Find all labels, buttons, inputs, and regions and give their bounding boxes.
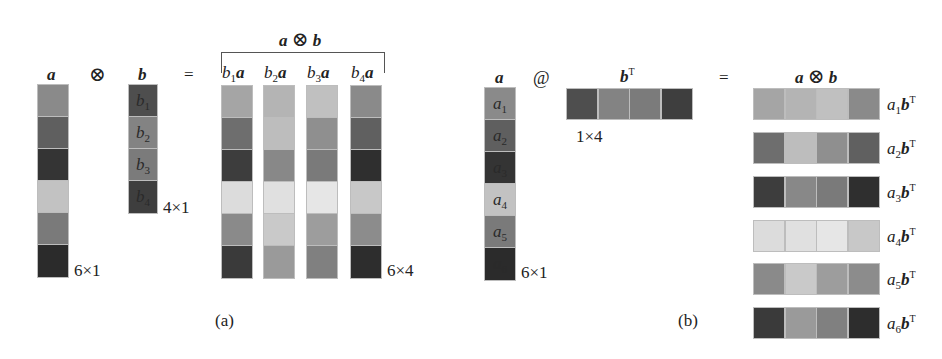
result-b-cell-r5-c4	[848, 263, 880, 295]
vector-b-shape: 4×1	[163, 199, 190, 216]
result-a-column-label-1: b1a	[222, 64, 245, 84]
vector-a-b-cell-3-label: a3	[485, 157, 515, 178]
result-b-cell-r6-c4	[848, 307, 880, 339]
result-a-cell-r6-c4	[350, 245, 382, 279]
result-b-cell-r6-c2	[785, 307, 817, 339]
result-a-cell-r6-c2	[263, 245, 295, 279]
result-a-cell-r1-c1	[221, 85, 253, 118]
vector-b-cell-1: b1	[128, 84, 158, 117]
result-b-cell-r1-c2	[785, 88, 817, 120]
result-a-cell-r4-c2	[263, 181, 295, 214]
result-a-cell-r4-c1	[221, 181, 253, 214]
result-b-cell-r5-c1	[753, 263, 785, 295]
result-a-cell-r3-c1	[221, 149, 253, 182]
result-a-cell-r2-c2	[263, 117, 295, 150]
vector-a-cell-3	[37, 148, 69, 181]
result-b-title: a ⊗ b	[795, 66, 837, 86]
vector-a-b-cell-1: a1	[484, 87, 516, 120]
result-a-cell-r1-c4	[350, 85, 382, 118]
result-b-cell-r5-c3	[816, 263, 848, 295]
result-a-cell-r4-c4	[350, 181, 382, 214]
result-b-cell-r3-c3	[816, 176, 848, 208]
result-b-cell-r4-c2	[785, 220, 817, 252]
result-a-column-label-4: b4a	[351, 64, 374, 84]
vector-a-b-cell-2-label: a2	[485, 125, 515, 146]
result-b-cell-r4-c4	[848, 220, 880, 252]
equals-sign-b: =	[719, 69, 729, 86]
result-a-cell-r1-c3	[306, 85, 338, 118]
result-b-cell-r1-c1	[753, 88, 785, 120]
result-a-cell-r6-c1	[221, 245, 253, 279]
vector-a-cell-2	[37, 116, 69, 149]
result-a-cell-r5-c3	[306, 213, 338, 246]
result-b-cell-r2-c4	[848, 132, 880, 164]
vector-a-label: a	[47, 66, 56, 83]
vector-b-label: b	[138, 66, 147, 83]
vector-a-b-shape: 6×1	[521, 264, 548, 281]
equals-sign-a: =	[184, 66, 194, 83]
vector-a-b-cell-4: a4	[484, 183, 516, 216]
result-b-cell-r6-c1	[753, 307, 785, 339]
result-a-cell-r2-c3	[306, 117, 338, 150]
vector-b-cell-3: b3	[128, 148, 158, 181]
result-b-cell-r5-c2	[785, 263, 817, 295]
vector-b-cell-4: b4	[128, 180, 158, 214]
result-a-column-label-3: b3a	[307, 64, 330, 84]
matmul-operator: @	[533, 69, 550, 87]
vector-bT-cell-3	[629, 88, 661, 120]
vector-a-b-cell-1-label: a1	[485, 93, 515, 114]
vector-a-b-cell-6-label: a6	[485, 254, 515, 275]
caption-b: (b)	[678, 312, 698, 329]
result-b-cell-r4-c3	[816, 220, 848, 252]
result-a-cell-r1-c2	[263, 85, 295, 118]
vector-a-b-cell-2: a2	[484, 119, 516, 152]
result-b-row-label-3: a3bT	[887, 183, 916, 204]
result-a-cell-r5-c4	[350, 213, 382, 246]
result-b-cell-r2-c1	[753, 132, 785, 164]
result-a-cell-r2-c4	[350, 117, 382, 150]
result-a-cell-r3-c4	[350, 149, 382, 182]
result-b-row-label-6: a6bT	[887, 314, 916, 335]
vector-a-cell-4	[37, 180, 69, 213]
kronecker-operator: ⊗	[89, 64, 106, 84]
result-a-cell-r5-c2	[263, 213, 295, 246]
result-a-shape: 6×4	[387, 262, 414, 279]
vector-a-b-cell-6: a6	[484, 247, 516, 281]
vector-a-b-cell-5-label: a5	[485, 221, 515, 242]
result-a-column-label-2: b2a	[264, 64, 287, 84]
vector-a-b-cell-5: a5	[484, 215, 516, 248]
result-b-row-label-5: a5bT	[887, 270, 916, 291]
vector-a-b-cell-4-label: a4	[485, 189, 515, 210]
vector-bT-shape: 1×4	[576, 128, 603, 145]
vector-a-b-cell-3: a3	[484, 151, 516, 184]
result-b-cell-r2-c3	[816, 132, 848, 164]
vector-bT-label: bT	[620, 67, 635, 85]
vector-a-cell-1	[37, 84, 69, 117]
vector-b-cell-1-label: b1	[129, 90, 157, 111]
result-a-cell-r2-c1	[221, 117, 253, 150]
result-b-row-label-2: a2bT	[887, 139, 916, 160]
caption-a: (a)	[215, 312, 234, 329]
vector-b-cell-2-label: b2	[129, 122, 157, 143]
vector-bT-cell-1	[566, 88, 598, 120]
result-b-cell-r3-c1	[753, 176, 785, 208]
result-b-cell-r4-c1	[753, 220, 785, 252]
vector-b-cell-3-label: b3	[129, 154, 157, 175]
result-a-cell-r6-c3	[306, 245, 338, 279]
result-b-row-label-1: a1bT	[887, 95, 916, 116]
result-b-cell-r3-c2	[785, 176, 817, 208]
result-a-cell-r5-c1	[221, 213, 253, 246]
vector-bT-cell-4	[661, 88, 693, 120]
vector-a-cell-6	[37, 244, 69, 278]
vector-a-shape: 6×1	[74, 262, 101, 279]
result-b-cell-r6-c3	[816, 307, 848, 339]
result-a-title: a ⊗ b	[279, 29, 321, 49]
result-b-cell-r1-c4	[848, 88, 880, 120]
result-b-row-label-4: a4bT	[887, 227, 916, 248]
result-b-cell-r3-c4	[848, 176, 880, 208]
vector-b-cell-2: b2	[128, 116, 158, 149]
vector-a-b-label: a	[495, 69, 504, 86]
vector-b-cell-4-label: b4	[129, 187, 157, 208]
vector-bT-cell-2	[598, 88, 630, 120]
vector-a-cell-5	[37, 212, 69, 245]
